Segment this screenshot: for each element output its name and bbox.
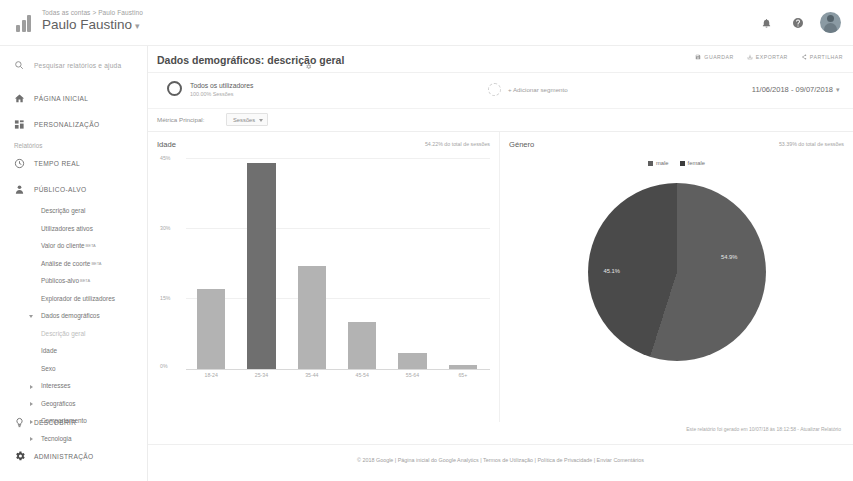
bar-55-64[interactable]	[398, 353, 426, 369]
sidebar-item-customization[interactable]: PERSONALIZAÇÃO	[0, 111, 147, 137]
sidebar-item-realtime[interactable]: TEMPO REAL	[0, 150, 147, 176]
legend-swatch-male	[648, 161, 653, 166]
google-analytics-page: Todas as contas > Paulo Faustino Paulo F…	[0, 0, 853, 481]
chevron-down-icon	[259, 119, 263, 122]
segment-ring-icon	[167, 81, 182, 96]
page-footer: © 2018 Google | Página inicial do Google…	[148, 444, 853, 481]
sidebar-item-lifetime-value[interactable]: Valor do clienteBETA	[0, 237, 147, 255]
date-range-picker[interactable]: 11/06/2018 - 09/07/2018▾	[752, 85, 840, 94]
bell-icon[interactable]	[758, 14, 775, 31]
legend-swatch-female	[680, 161, 685, 166]
sidebar-label-interests: Interesses	[41, 382, 70, 389]
bar-column[interactable]	[390, 158, 435, 369]
report-generated-note[interactable]: Este relatório foi gerado em 10/07/18 às…	[686, 426, 841, 432]
bar-series	[186, 158, 488, 369]
avatar[interactable]	[820, 12, 841, 33]
sidebar-item-discover[interactable]: DESCOBRIR	[0, 405, 147, 439]
legend-item-female[interactable]: female	[680, 160, 705, 166]
sidebar-item-overview[interactable]: Descrição geral	[0, 202, 147, 220]
gear-icon[interactable]	[305, 56, 312, 74]
sidebar-item-cohort-analysis[interactable]: Análise de coorteBETA	[0, 255, 147, 273]
beta-badge: BETA	[86, 243, 96, 248]
sidebar-group-interests[interactable]: Interesses	[0, 377, 147, 395]
search-input-placeholder: Pesquisar relatórios e ajuda	[34, 62, 121, 69]
segment-name[interactable]: Todos os utilizadores	[190, 82, 253, 89]
customization-icon	[14, 119, 34, 130]
sidebar-item-active-users[interactable]: Utilizadores ativos	[0, 220, 147, 238]
gender-pie-holder: 45.1% 54.9%	[500, 172, 853, 372]
account-breadcrumb[interactable]: Todas as contas > Paulo Faustino	[42, 9, 143, 16]
sidebar: Pesquisar relatórios e ajuda PÁGINA INIC…	[0, 46, 148, 481]
y-tick: 0%	[160, 363, 182, 369]
save-button[interactable]: GUARDAR	[695, 54, 733, 60]
account-name-label: Paulo Faustino	[42, 17, 132, 32]
sidebar-label-cohort-analysis: Análise de coorte	[41, 260, 90, 267]
analytics-logo-icon	[16, 14, 34, 32]
page-header: Dados demográficos: descrição geral GUAR…	[148, 46, 853, 73]
top-bar-icons	[758, 12, 841, 33]
search-reports-row[interactable]: Pesquisar relatórios e ajuda	[0, 50, 147, 80]
bar-column[interactable]	[239, 158, 284, 369]
age-bar-chart: 45% 30% 15% 0% 18-24 25-34	[160, 158, 490, 370]
sidebar-item-demographics-age[interactable]: Idade	[0, 342, 147, 360]
y-tick: 15%	[160, 295, 182, 301]
sidebar-label-demographics-gender: Sexo	[41, 365, 56, 372]
add-segment-button[interactable]: + Adicionar segmento	[508, 86, 568, 93]
sidebar-item-home[interactable]: PÁGINA INICIAL	[0, 85, 147, 111]
bar-column[interactable]	[189, 158, 234, 369]
sidebar-item-audience[interactable]: PÚBLICO-ALVO	[0, 176, 147, 202]
top-bar: Todas as contas > Paulo Faustino Paulo F…	[0, 0, 853, 46]
help-icon[interactable]	[789, 14, 806, 31]
segment-sub: 100.00% Sessões	[190, 91, 233, 97]
bar-column[interactable]	[340, 158, 385, 369]
lightbulb-icon	[14, 417, 34, 428]
chevron-down-icon: ▾	[836, 86, 840, 93]
x-tick: 55-64	[390, 372, 435, 378]
sidebar-bottom: DESCOBRIR ADMINISTRAÇÃO	[0, 405, 147, 473]
segment-bar: Todos os utilizadores 100.00% Sessões + …	[148, 73, 853, 109]
sidebar-item-demographics-gender[interactable]: Sexo	[0, 360, 147, 378]
sidebar-label-lifetime-value: Valor do cliente	[41, 242, 85, 249]
legend-label-male: male	[656, 160, 669, 166]
clock-icon	[14, 158, 34, 169]
account-selector[interactable]: Paulo Faustino▾	[42, 17, 140, 32]
share-button[interactable]: PARTILHAR	[801, 54, 843, 60]
bar-65-plus[interactable]	[449, 365, 477, 369]
main-content: Dados demográficos: descrição geral GUAR…	[148, 46, 853, 481]
gender-chart-title: Género	[509, 140, 534, 149]
age-chart-subtitle: 54.22% do total de sessões	[425, 141, 490, 147]
primary-metric-value: Sessões	[233, 117, 255, 123]
sidebar-label-active-users: Utilizadores ativos	[41, 225, 93, 232]
page-actions: GUARDAR EXPORTAR PARTILHAR	[695, 54, 843, 60]
sidebar-item-audiences[interactable]: Públicos-alvoBETA	[0, 272, 147, 290]
sidebar-item-demographics-overview[interactable]: Descrição geral	[0, 325, 147, 343]
sidebar-item-user-explorer[interactable]: Explorador de utilizadores	[0, 290, 147, 308]
x-tick: 35-44	[289, 372, 334, 378]
legend-item-male[interactable]: male	[648, 160, 669, 166]
bar-25-34[interactable]	[247, 163, 275, 369]
primary-metric-select[interactable]: Sessões	[226, 113, 268, 126]
beta-badge: BETA	[91, 261, 101, 266]
search-icon	[14, 60, 34, 70]
x-tick: 45-54	[340, 372, 385, 378]
sidebar-group-demographics[interactable]: Dados demográficos	[0, 307, 147, 325]
export-button[interactable]: EXPORTAR	[747, 54, 788, 60]
x-axis	[186, 369, 490, 370]
bar-column[interactable]	[440, 158, 485, 369]
sidebar-section-reports: Relatórios	[0, 142, 147, 149]
bar-column[interactable]	[289, 158, 334, 369]
bar-35-44[interactable]	[298, 266, 326, 369]
person-icon	[14, 184, 34, 195]
share-label: PARTILHAR	[810, 54, 843, 60]
sidebar-label-overview: Descrição geral	[41, 207, 85, 214]
gender-chart-subtitle: 53.39% do total de sessões	[779, 141, 844, 147]
bar-18-24[interactable]	[197, 289, 225, 369]
page-title: Dados demográficos: descrição geral	[157, 54, 344, 66]
export-label: EXPORTAR	[756, 54, 788, 60]
bar-45-54[interactable]	[348, 322, 376, 369]
sidebar-label-audience: PÚBLICO-ALVO	[34, 186, 86, 193]
x-tick: 65+	[440, 372, 485, 378]
footer-links[interactable]: © 2018 Google | Página inicial do Google…	[148, 457, 853, 463]
sidebar-item-admin[interactable]: ADMINISTRAÇÃO	[0, 439, 147, 473]
gender-pie-chart[interactable]: 45.1% 54.9%	[588, 183, 766, 361]
